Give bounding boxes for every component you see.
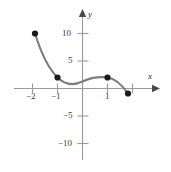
x-axis-arrow-icon bbox=[152, 85, 160, 92]
data-point bbox=[32, 30, 38, 36]
x-tick-label-neg1: −1 bbox=[51, 92, 61, 101]
y-tick-label-neg5: −5 bbox=[63, 111, 73, 120]
coordinate-plane-svg bbox=[0, 0, 171, 172]
data-point bbox=[54, 74, 60, 80]
y-tick-label-neg10: −10 bbox=[58, 139, 72, 148]
data-point bbox=[104, 74, 110, 80]
graph-figure: −2 −1 1 10 5 −5 −10 y x bbox=[0, 0, 171, 172]
y-axis-label: y bbox=[88, 10, 92, 19]
y-tick-label-5: 5 bbox=[68, 56, 73, 65]
data-point bbox=[125, 90, 131, 96]
x-tick-label-1: 1 bbox=[105, 92, 110, 101]
y-axis-arrow-icon bbox=[79, 9, 86, 17]
function-curve bbox=[35, 34, 128, 94]
x-axis-label: x bbox=[148, 72, 152, 81]
x-tick-label-neg2: −2 bbox=[26, 92, 36, 101]
y-tick-label-10: 10 bbox=[62, 29, 71, 38]
